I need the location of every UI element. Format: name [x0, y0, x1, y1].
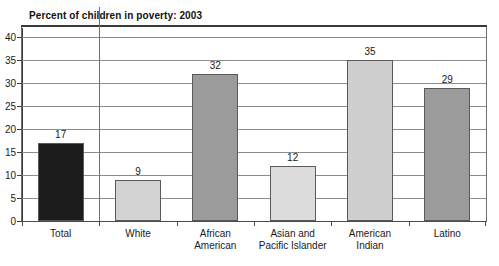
- bar-3: [270, 166, 316, 221]
- bar-value-label-1: 9: [118, 166, 158, 177]
- x-tick-1: [99, 221, 100, 226]
- bar-value-label-5: 29: [427, 74, 467, 85]
- x-tick-label-4: American Indian: [331, 228, 408, 252]
- x-tick-2: [177, 221, 178, 226]
- x-tick-5: [409, 221, 410, 226]
- y-tick-40: [17, 37, 22, 38]
- y-tick-label-30: 30: [5, 78, 16, 89]
- y-tick-label-0: 0: [10, 216, 16, 227]
- chart-title-band: Percent of children in poverty: 2003: [21, 6, 487, 27]
- x-tick-label-2: African American: [177, 228, 254, 252]
- gridline-25: [22, 106, 486, 107]
- y-tick-35: [17, 60, 22, 61]
- x-tick-3: [254, 221, 255, 226]
- y-tick-25: [17, 106, 22, 107]
- bar-1: [115, 180, 161, 221]
- bar-value-label-0: 17: [41, 129, 81, 140]
- bar-5: [424, 88, 470, 221]
- x-tick-end: [485, 221, 486, 226]
- x-tick-4: [331, 221, 332, 226]
- x-tick-label-1: White: [99, 228, 176, 240]
- x-tick-label-3: Asian and Pacific Islander: [254, 228, 331, 252]
- page-title: Percent of children in poverty: 2003: [21, 10, 202, 21]
- gridline-15: [22, 152, 486, 153]
- total-group-divider: [99, 7, 100, 221]
- y-tick-15: [17, 152, 22, 153]
- gridline-5: [22, 198, 486, 199]
- bar-0: [38, 143, 84, 221]
- y-tick-label-20: 20: [5, 124, 16, 135]
- x-axis-ticks: [22, 221, 486, 226]
- gridline-35: [22, 60, 486, 61]
- bar-value-label-2: 32: [195, 60, 235, 71]
- bar-4: [347, 60, 393, 221]
- x-tick-0: [22, 221, 23, 226]
- x-tick-label-0: Total: [22, 228, 99, 240]
- gridline-10: [22, 175, 486, 176]
- bar-value-label-3: 12: [273, 152, 313, 163]
- bar-value-label-4: 35: [350, 46, 390, 57]
- y-tick-label-15: 15: [5, 147, 16, 158]
- y-axis-line: [22, 28, 23, 221]
- y-tick-label-5: 5: [10, 193, 16, 204]
- plot-area: 17932123529: [22, 28, 486, 221]
- y-tick-label-40: 40: [5, 32, 16, 43]
- y-tick-20: [17, 129, 22, 130]
- y-tick-label-10: 10: [5, 170, 16, 181]
- gridline-20: [22, 129, 486, 130]
- y-axis-labels: 0510152025303540: [0, 28, 16, 221]
- y-tick-5: [17, 198, 22, 199]
- x-axis-labels: TotalWhiteAfrican AmericanAsian and Paci…: [22, 228, 486, 264]
- y-tick-10: [17, 175, 22, 176]
- y-tick-label-25: 25: [5, 101, 16, 112]
- chart-figure: Percent of children in poverty: 2003 051…: [0, 0, 499, 266]
- x-tick-label-5: Latino: [409, 228, 486, 240]
- gridline-30: [22, 83, 486, 84]
- gridline-40: [22, 37, 486, 38]
- y-tick-label-35: 35: [5, 55, 16, 66]
- bar-2: [192, 74, 238, 221]
- y-tick-30: [17, 83, 22, 84]
